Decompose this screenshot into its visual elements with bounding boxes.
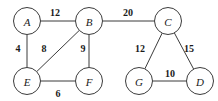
edge-weight-c-d: 15 bbox=[184, 43, 194, 54]
node-label-e: E bbox=[23, 76, 31, 88]
node-label-d: D bbox=[195, 76, 204, 88]
node-label-b: B bbox=[86, 16, 93, 28]
graph-figure: ABCEFGD 12204896121510 bbox=[0, 0, 218, 101]
edge-weight-e-f: 6 bbox=[56, 88, 61, 99]
node-label-f: F bbox=[85, 76, 93, 88]
edge-weight-g-d: 10 bbox=[165, 68, 175, 79]
edge-weight-e-b: 8 bbox=[42, 43, 47, 54]
edge-weight-c-g: 12 bbox=[135, 43, 145, 54]
graph-node-a: A bbox=[14, 8, 41, 35]
node-label-a: A bbox=[23, 16, 31, 28]
graph-canvas: ABCEFGD 12204896121510 bbox=[0, 0, 218, 101]
graph-node-g: G bbox=[126, 68, 153, 95]
graph-node-d: D bbox=[187, 68, 214, 95]
node-label-g: G bbox=[135, 76, 143, 88]
graph-node-e: E bbox=[14, 68, 41, 95]
graph-node-b: B bbox=[76, 8, 103, 35]
edge-weight-a-e: 4 bbox=[16, 43, 21, 54]
edge-weight-b-f: 9 bbox=[81, 43, 86, 54]
node-label-c: C bbox=[164, 16, 172, 28]
graph-node-f: F bbox=[76, 68, 103, 95]
graph-edge-c-g bbox=[145, 33, 162, 69]
edge-weight-b-c: 20 bbox=[123, 7, 133, 18]
edge-weight-a-b: 12 bbox=[50, 7, 60, 18]
graph-node-c: C bbox=[155, 8, 182, 35]
